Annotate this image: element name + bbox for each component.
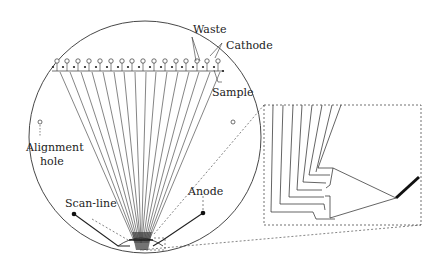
channel-convergence [132, 232, 152, 250]
alignment-hole-left [38, 120, 42, 124]
inset-electrode [396, 177, 419, 198]
dashed-guides [92, 105, 421, 250]
label-sample: Sample [212, 86, 254, 99]
wafer-outline [29, 21, 261, 253]
label-cathode: Cathode [226, 39, 273, 52]
alignment-hole-right [231, 120, 235, 124]
label-waste: Waste [193, 23, 226, 36]
anode-electrode [201, 211, 206, 216]
scan-line-electrode [72, 212, 77, 217]
inset-channels [271, 105, 396, 219]
inset-frame [264, 105, 421, 225]
label-anode: Anode [187, 185, 223, 198]
chip-diagram: Waste Cathode Sample Alignment hole Scan… [0, 0, 442, 266]
label-scan-line: Scan-line [65, 197, 117, 210]
label-alignment-hole-1: Alignment [25, 141, 84, 154]
label-alignment-hole-2: hole [40, 155, 64, 168]
